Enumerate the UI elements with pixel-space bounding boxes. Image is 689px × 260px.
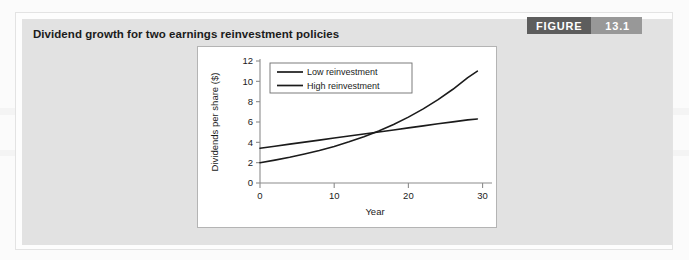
y-tick-label: 2 (248, 157, 253, 168)
figure-badge-number: 13.1 (591, 17, 642, 34)
y-tick-label: 4 (248, 137, 253, 148)
chart-axis-titles: YearDividends per share ($) (209, 73, 385, 217)
y-axis-title: Dividends per share ($) (209, 73, 220, 172)
legend-label: Low reinvestment (307, 67, 378, 77)
chart-card: 0246810120102030 YearDividends per share… (197, 46, 497, 228)
x-axis-title: Year (365, 206, 384, 217)
x-tick-label: 20 (403, 190, 414, 201)
chart-legend: Low reinvestmentHigh reinvestment (270, 63, 412, 93)
x-tick-label: 0 (257, 190, 262, 201)
figure-caption: Dividend growth for two earnings reinves… (33, 28, 339, 40)
y-tick-label: 0 (248, 177, 253, 188)
y-tick-label: 8 (248, 96, 253, 107)
figure-page: Dividend growth for two earnings reinves… (0, 0, 689, 260)
figure-badge: FIGURE 13.1 (527, 17, 642, 34)
figure-badge-word: FIGURE (527, 17, 591, 34)
x-tick-label: 10 (329, 190, 340, 201)
series-line (260, 119, 477, 148)
line-chart: 0246810120102030 YearDividends per share… (198, 47, 498, 229)
y-tick-label: 10 (242, 76, 253, 87)
legend-label: High reinvestment (307, 81, 380, 91)
y-tick-label: 6 (248, 116, 253, 127)
y-tick-label: 12 (242, 55, 253, 66)
x-tick-label: 30 (477, 190, 488, 201)
